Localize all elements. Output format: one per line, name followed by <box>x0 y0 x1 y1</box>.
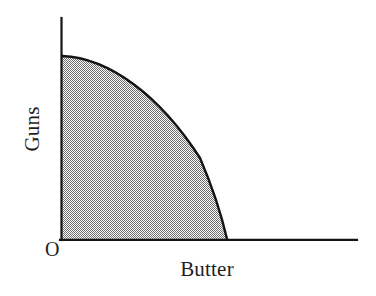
attainable-set-region <box>62 56 227 239</box>
origin-label: O <box>45 239 60 259</box>
ppf-figure: Guns Butter O <box>0 0 376 296</box>
x-axis-label: Butter <box>147 259 267 280</box>
y-axis-label: Guns <box>0 97 64 161</box>
